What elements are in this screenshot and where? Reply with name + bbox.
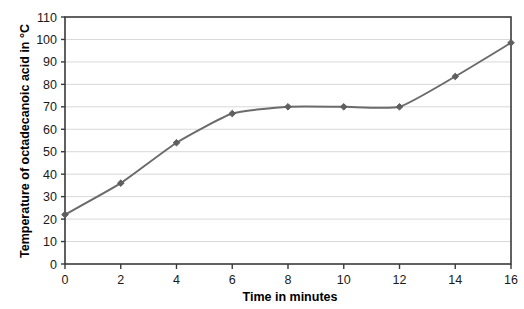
y-tick-label: 90 [43,55,57,69]
y-tick-label: 60 [43,123,57,137]
x-tick-label: 8 [285,273,292,287]
x-tick-label: 14 [448,273,462,287]
y-axis-title: Temperature of octadecanoic acid in °C [18,24,32,258]
x-tick-label: 6 [229,273,236,287]
y-tick-label: 50 [43,145,57,159]
x-tick-label: 4 [173,273,180,287]
y-tick-label: 70 [43,100,57,114]
y-tick-label: 80 [43,78,57,92]
x-tick-label: 0 [62,273,69,287]
y-tick-label: 40 [43,168,57,182]
chart-page: 0102030405060708090100110 0246810121416 … [0,0,524,309]
y-tick-label: 100 [36,33,57,47]
x-tick-label: 12 [393,273,407,287]
y-tick-label: 110 [37,11,57,25]
y-tick-label: 10 [43,235,57,249]
y-tick-label: 30 [43,190,57,204]
x-axis-title: Time in minutes [243,290,338,304]
x-tick-label: 2 [117,273,124,287]
line-chart: 0102030405060708090100110 0246810121416 … [0,0,524,309]
x-tick-label: 10 [337,273,351,287]
y-tick-label: 20 [43,213,57,227]
x-tick-label: 16 [504,273,518,287]
y-tick-label: 0 [50,258,57,272]
chart-background [0,0,524,309]
